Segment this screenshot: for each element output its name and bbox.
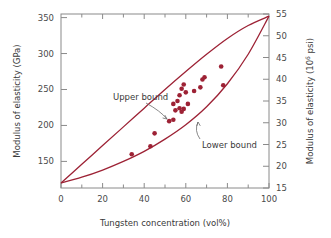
x-axis-title: Tungsten concentration (vol%) — [99, 218, 230, 228]
data-point — [221, 83, 226, 88]
x-tick-label: 80 — [222, 194, 233, 204]
y-right-tick-label: 50 — [276, 31, 287, 41]
data-point — [171, 117, 176, 122]
y-axis-right-title-base: Modulus of elasticity (10 — [305, 60, 315, 164]
y-right-tick-label: 35 — [276, 96, 287, 106]
data-point — [198, 85, 203, 90]
data-point — [202, 75, 207, 80]
y-right-tick-label: 45 — [276, 53, 287, 63]
y-axis-right-title-tail: psi) — [305, 38, 315, 56]
data-point — [171, 102, 176, 107]
data-point — [192, 89, 197, 94]
y-left-tick-label: 150 — [38, 156, 54, 166]
data-point — [181, 82, 186, 87]
data-point — [184, 90, 189, 95]
data-point — [175, 99, 180, 104]
annotation-lower-bound: Lower bound — [202, 140, 257, 150]
y-axis-right-tick-labels: 152025303540455055 — [276, 9, 287, 193]
y-axis-left-tick-labels: 150200250300350 — [38, 13, 54, 167]
y-right-tick-label: 55 — [276, 9, 287, 19]
x-tick-label: 0 — [58, 194, 63, 204]
data-point — [173, 108, 178, 113]
x-tick-label: 40 — [139, 194, 150, 204]
y-left-tick-label: 350 — [38, 13, 54, 23]
data-point — [148, 144, 153, 149]
x-tick-label: 60 — [180, 194, 191, 204]
y-left-tick-label: 250 — [38, 84, 54, 94]
y-left-tick-label: 300 — [38, 49, 54, 59]
y-axis-right-title: Modulus of elasticity (106 psi) — [304, 38, 315, 164]
y-right-tick-label: 25 — [276, 140, 287, 150]
data-point — [167, 119, 172, 124]
data-point — [177, 93, 182, 98]
data-point — [219, 64, 224, 69]
data-point — [186, 102, 191, 107]
y-axis-left-title: Modulus of elasticity (GPa) — [12, 44, 22, 157]
x-axis-tick-labels: 020406080100 — [58, 194, 277, 204]
y-right-tick-label: 20 — [276, 161, 287, 171]
data-point — [152, 131, 157, 136]
x-tick-label: 20 — [97, 194, 108, 204]
y-right-tick-label: 15 — [276, 183, 287, 193]
modulus-vs-tungsten-scatter-chart: 020406080100 150200250300350 15202530354… — [0, 0, 331, 238]
annotation-upper-bound: Upper bound — [113, 92, 168, 102]
y-left-tick-label: 200 — [38, 120, 54, 130]
chart-figure: 020406080100 150200250300350 15202530354… — [0, 0, 331, 238]
data-point — [179, 86, 184, 91]
y-right-tick-label: 30 — [276, 118, 287, 128]
data-point — [181, 107, 186, 112]
x-tick-label: 100 — [261, 194, 277, 204]
data-point — [129, 152, 134, 157]
y-right-tick-label: 40 — [276, 74, 287, 84]
